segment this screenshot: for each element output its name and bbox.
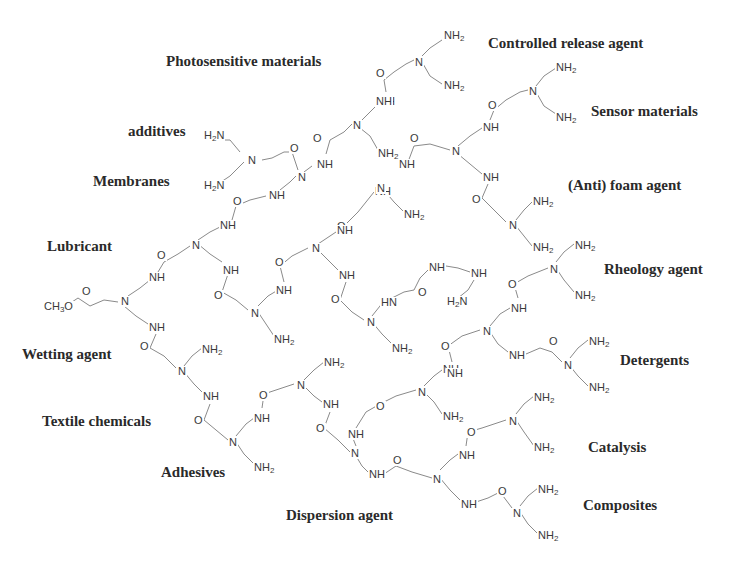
atom-label: NH	[470, 268, 488, 279]
atom-label: NH	[398, 159, 416, 170]
atom-label: N	[296, 380, 306, 391]
atom-label: O	[440, 341, 451, 352]
atom-label: N	[432, 474, 442, 485]
atom-label: O	[392, 455, 403, 466]
atom-label: NH	[482, 122, 500, 133]
atom-label: O	[289, 143, 300, 154]
atom-label: O	[81, 286, 92, 297]
label-dispersion-agent: Dispersion agent	[286, 508, 393, 523]
atom-label: O	[315, 423, 326, 434]
atom-label: O	[497, 486, 508, 497]
atom-label: NH2	[574, 240, 596, 253]
atom-label: N	[177, 366, 187, 377]
atom-label: NH2	[574, 290, 596, 303]
atom-label: NH2	[537, 530, 559, 543]
atom-label: H2N	[203, 180, 225, 193]
atom-label: NH	[219, 220, 237, 231]
atom-label: O	[258, 390, 269, 401]
atom-label: H2N	[446, 296, 468, 309]
atom-label: N	[366, 317, 376, 328]
atom-label: NH	[482, 172, 500, 183]
dendrimer-diagram: Photosensitive materials Controlled rele…	[0, 0, 743, 561]
atom-label: NH2	[442, 411, 464, 424]
atom-label: NH	[322, 399, 340, 410]
atom-label: NH	[202, 391, 220, 402]
atom-label: O	[193, 415, 204, 426]
atom-label: N	[247, 155, 257, 166]
atom-label: N	[120, 296, 130, 307]
atom-label: N	[482, 326, 492, 337]
atom-label: NH2	[253, 462, 275, 475]
label-catalysis: Catalysis	[588, 440, 646, 455]
atom-label: O	[507, 279, 518, 290]
atom-label: O	[471, 194, 482, 205]
atom-label: O	[312, 133, 323, 144]
atom-label: O	[417, 287, 428, 298]
label-adhesives: Adhesives	[161, 465, 225, 480]
atom-label: O	[139, 341, 150, 352]
label-rheology-agent: Rheology agent	[604, 262, 703, 277]
label-additives: additives	[128, 124, 186, 139]
atom-label: NH2	[443, 80, 465, 93]
atom-label: N	[528, 86, 538, 97]
label-controlled-release-agent: Controlled release agent	[488, 36, 643, 51]
label-anti-foam-agent: (Anti) foam agent	[568, 178, 681, 193]
atom-label: NH	[460, 499, 478, 510]
atom-label: NH2	[588, 336, 610, 349]
atom-label: O	[409, 133, 420, 144]
atom-label: NH2	[533, 392, 555, 405]
atom-label: NH2	[323, 357, 345, 370]
atom-label: N	[414, 57, 424, 68]
atom-label: NH2	[537, 484, 559, 497]
label-wetting-agent: Wetting agent	[22, 347, 112, 362]
atom-label: NH	[368, 469, 386, 480]
atom-label: NH2	[391, 343, 413, 356]
atom-label: N	[512, 508, 522, 519]
atom-label: NH2	[443, 30, 465, 43]
atom-label: NH2	[555, 62, 577, 75]
atom-label: NH2	[533, 442, 555, 455]
atom-label: NH	[148, 272, 166, 283]
atom-label: O	[487, 100, 498, 111]
atom-label: NH	[338, 270, 356, 281]
atom-label: N	[228, 437, 238, 448]
atom-label: H2N	[203, 130, 225, 143]
atom-label: NH	[268, 190, 286, 201]
atom-label: NH2	[273, 334, 295, 347]
atom-label: N	[563, 360, 573, 371]
atom-label: N	[350, 448, 360, 459]
label-detergents: Detergents	[620, 353, 689, 368]
atom-label: O	[232, 196, 243, 207]
atom-label: N	[191, 240, 201, 251]
label-membranes: Membranes	[93, 174, 170, 189]
atom-label: N	[549, 264, 559, 275]
atom-label: N	[508, 416, 518, 427]
atom-label: NH	[428, 262, 446, 273]
atom-label: N	[297, 172, 307, 183]
atom-label: N	[311, 243, 321, 254]
atom-label: NH	[375, 96, 393, 107]
atom-label: NH	[275, 285, 293, 296]
atom-label: N	[352, 120, 362, 131]
atom-label: N	[508, 220, 518, 231]
atom-label: NH	[458, 450, 476, 461]
atom-label: NH	[446, 368, 464, 379]
atom-label: NH2	[532, 242, 554, 255]
atom-label: HN	[380, 297, 398, 308]
atom-label: CH3O	[43, 301, 74, 314]
atom-label: N	[376, 183, 386, 194]
atom-label: NH2	[555, 112, 577, 125]
atom-label: O	[375, 68, 386, 79]
atom-label: NH	[222, 265, 240, 276]
atom-label: O	[330, 294, 341, 305]
atom-label: O	[274, 257, 285, 268]
atom-label: NH	[508, 350, 526, 361]
atom-label: NH	[316, 159, 334, 170]
label-photosensitive-materials: Photosensitive materials	[166, 54, 321, 69]
atom-label: NH	[253, 413, 271, 424]
atom-label: O	[156, 250, 167, 261]
atom-label: NH2	[532, 196, 554, 209]
label-sensor-materials: Sensor materials	[591, 104, 698, 119]
label-composites: Composites	[583, 498, 657, 513]
atom-label: NH2	[588, 382, 610, 395]
